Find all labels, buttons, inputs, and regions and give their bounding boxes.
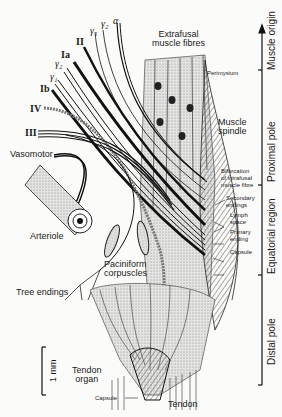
label-gamma1-top: γ₁ (90, 26, 97, 35)
region-equatorial-region: Equatorial region (266, 198, 277, 274)
label-secondary-endings: Secondary endings (226, 195, 255, 209)
label-capsule-tendon: Capsule (95, 395, 117, 402)
region-muscle-origin: Muscle origin (266, 11, 277, 70)
label-gamma2: γ₂ (55, 59, 62, 68)
label-vasomotor: Vasomotor (10, 150, 53, 159)
label-II: II (76, 37, 84, 46)
label-arteriole: Arteriole (30, 232, 64, 241)
label-bifurcation: Bifurcation of intrafusal muscle fibre (221, 168, 253, 189)
label-tendon-organ: Tendon organ (72, 366, 102, 384)
paciniform-corpuscles (101, 220, 150, 258)
label-extrafusal-muscle-fibres: Extrafusal muscle fibres (152, 30, 205, 48)
label-Ia: Ia (61, 50, 70, 59)
label-tree-endings: Tree endings (16, 288, 68, 297)
label-muscle-spindle: Muscle spindle (218, 118, 247, 136)
label-primary-ending: Primary ending (230, 229, 251, 243)
region-distal-pole: Distal pole (266, 318, 277, 365)
label-lymph-space: Lymph space (230, 212, 248, 226)
label-gamma2-top: γ₂ (101, 19, 108, 28)
arteriole-drawing (25, 165, 92, 235)
label-capsule: Capsule (230, 249, 252, 256)
region-brackets (258, 25, 265, 385)
scale-bar-label: 1 mm (48, 360, 58, 383)
label-Ib: Ib (40, 84, 49, 93)
label-tendon: Tendon (168, 400, 198, 409)
tendon-organ-drawing (90, 283, 215, 410)
scale-bar (42, 347, 46, 395)
label-IV: IV (30, 104, 41, 113)
label-paciniform-corpuscles: Paciniform corpuscles (104, 260, 147, 278)
region-proximal-pole: Proximal pole (266, 121, 277, 182)
label-perimysium: Perimysium (207, 70, 238, 77)
label-gamma1: γ₁ (50, 72, 57, 81)
label-III: III (25, 128, 37, 137)
label-alpha: α (113, 16, 118, 25)
